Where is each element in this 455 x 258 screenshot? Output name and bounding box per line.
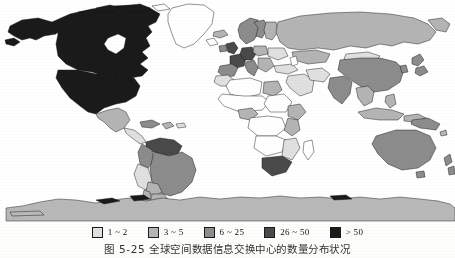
legend-swatch-icon-4 [264,227,275,238]
legend-item-5: > 50 [330,227,364,238]
world-map: .ln{fill:none;stroke:#111;stroke-width:.… [0,0,455,222]
legend-item-3: 6 ~ 25 [204,227,245,238]
legend-label-5: > 50 [346,228,364,237]
world-map-svg: .ln{fill:none;stroke:#111;stroke-width:.… [0,0,455,222]
figure-caption: 图 5-25 全球空间数据信息交换中心的数量分布状况 [0,243,455,258]
legend-label-1: 1 ~ 2 [108,228,128,237]
legend-swatch-icon-1 [92,227,103,238]
legend-swatch-icon-5 [330,227,341,238]
legend-swatch-icon-3 [204,227,215,238]
figure-caption-text: 图 5-25 全球空间数据信息交换中心的数量分布状况 [104,243,350,255]
legend-label-2: 3 ~ 5 [164,228,184,237]
legend-item-4: 26 ~ 50 [264,227,309,238]
figure-container: .ln{fill:none;stroke:#111;stroke-width:.… [0,0,455,258]
legend-swatch-icon-2 [148,227,159,238]
legend: 1 ~ 2 3 ~ 5 6 ~ 25 26 ~ 50 > 50 [0,221,455,243]
legend-label-4: 26 ~ 50 [280,228,309,237]
legend-item-2: 3 ~ 5 [148,227,184,238]
legend-item-1: 1 ~ 2 [92,227,128,238]
legend-label-3: 6 ~ 25 [220,228,245,237]
